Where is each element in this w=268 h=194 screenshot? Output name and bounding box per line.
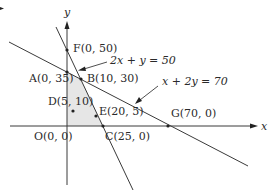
label-D: D(5, 10) xyxy=(48,95,93,108)
corner-arrow-mark xyxy=(0,7,4,10)
y-axis-label: y xyxy=(63,6,71,19)
label-O: O(0, 0) xyxy=(34,130,73,143)
point-E xyxy=(94,114,97,117)
leader-line-2 xyxy=(140,86,158,100)
y-axis-arrow-icon xyxy=(65,21,70,29)
point-F xyxy=(65,48,68,51)
leader-line-1 xyxy=(84,62,107,69)
label-G: G(70, 0) xyxy=(171,107,216,120)
label-B: B(10, 30) xyxy=(87,72,139,85)
x-axis-label: x xyxy=(261,120,268,133)
equation-label-2: x + 2y = 70 xyxy=(162,75,228,88)
equation-label-1: 2x + y = 50 xyxy=(109,54,176,67)
leader-arrow-2-icon xyxy=(135,97,142,104)
label-C: C(25, 0) xyxy=(105,130,150,143)
label-E: E(20, 5) xyxy=(99,105,144,118)
point-B xyxy=(79,77,82,80)
label-A: A(0, 35) xyxy=(28,72,74,85)
point-G xyxy=(166,124,169,127)
x-axis-arrow-icon xyxy=(250,124,258,129)
point-C xyxy=(101,124,104,127)
lp-feasible-region-diagram: x y F(0, 50) A(0, 35) B(10, 30) D(5, 10)… xyxy=(0,0,268,194)
leader-arrow-1-icon xyxy=(78,67,86,72)
point-D xyxy=(71,109,74,112)
